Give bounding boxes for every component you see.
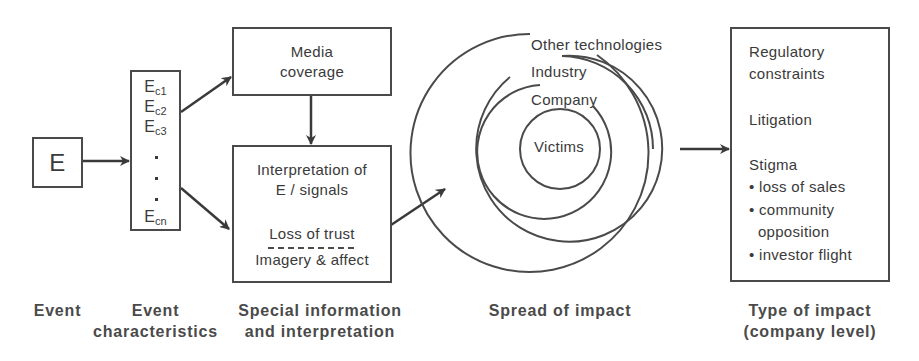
interpretation-line1: Interpretation of	[234, 161, 390, 178]
imagery-affect: Imagery & affect	[234, 251, 390, 268]
impact-regulatory-line1: Regulatory	[749, 43, 825, 60]
stigma-bullet-investor-flight: • investor flight	[749, 246, 852, 263]
characteristic-ec2: Ec2	[132, 98, 179, 120]
impact-litigation: Litigation	[749, 111, 812, 128]
media-coverage-box: Media coverage	[232, 27, 392, 96]
stigma-bullet-opposition: opposition	[749, 223, 829, 240]
interpretation-box: Interpretation of E / signals Loss of tr…	[232, 145, 392, 283]
event-box: E	[32, 137, 83, 188]
arrow-characteristics-to-media	[181, 77, 231, 112]
impact-regulatory-line2: constraints	[749, 65, 825, 82]
stigma-bullet-loss-of-sales: • loss of sales	[749, 178, 845, 195]
ring-label-other-technologies: Other technologies	[531, 36, 662, 53]
characteristic-ec1: Ec1	[132, 78, 179, 100]
caption-type-line2: (company level)	[730, 321, 890, 342]
arrow-characteristics-to-interpretation	[181, 188, 229, 229]
caption-spread: Spread of impact	[480, 300, 640, 321]
impact-type-box: Regulatory constraints Litigation Stigma…	[730, 27, 890, 282]
characteristic-ec3: Ec3	[132, 118, 179, 140]
caption-characteristics-line1: Event	[88, 300, 223, 321]
characteristics-box: Ec1 Ec2 Ec3 Ecn	[130, 70, 181, 231]
loss-of-trust: Loss of trust	[234, 225, 390, 242]
dashed-divider	[268, 247, 354, 249]
impact-stigma: Stigma	[749, 156, 798, 173]
ring-label-company: Company	[531, 91, 597, 108]
caption-type-line1: Type of impact	[730, 300, 890, 321]
ellipsis-dot	[155, 198, 158, 201]
caption-special-line2: and interpretation	[230, 321, 410, 342]
interpretation-line2: E / signals	[234, 181, 390, 198]
ring-other-technologies	[535, 27, 593, 32]
caption-event: Event	[30, 300, 85, 321]
characteristic-ecn: Ecn	[132, 208, 179, 230]
ellipsis-dot	[155, 156, 158, 159]
ellipsis-dot	[155, 177, 158, 180]
ring-other-technologies-main	[410, 34, 648, 272]
caption-special-line1: Special information	[230, 300, 410, 321]
event-box-label: E	[34, 149, 81, 177]
ring-label-industry: Industry	[531, 63, 587, 80]
ring-label-victims: Victims	[534, 138, 584, 155]
media-line1: Media	[234, 43, 390, 60]
stigma-bullet-community: • community	[749, 201, 834, 218]
caption-characteristics-line2: characteristics	[88, 321, 223, 342]
media-line2: coverage	[234, 63, 390, 80]
